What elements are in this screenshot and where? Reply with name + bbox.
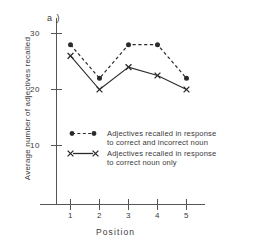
y-tick-label: 30 — [30, 29, 40, 38]
data-point — [97, 76, 102, 81]
x-tick-label: 4 — [155, 211, 160, 220]
y-axis-label: Average number of adjectives recalled — [23, 24, 32, 194]
x-tick-label: 1 — [68, 211, 73, 220]
legend-entry-1-line-1: Adjectives recalled in response — [107, 129, 216, 138]
series-2-line — [71, 56, 187, 90]
x-tick-label: 5 — [184, 211, 189, 220]
chart-canvas — [0, 0, 272, 248]
series-correct-and-incorrect-noun — [68, 42, 189, 81]
y-tick-label: 10 — [30, 141, 40, 150]
x-tick-label: 2 — [97, 211, 102, 220]
legend-marker-series-2 — [68, 151, 99, 157]
y-tick-label: 20 — [30, 85, 40, 94]
data-point — [68, 42, 73, 47]
x-axis-label: Position — [96, 227, 135, 237]
legend-entry-2-line-2: to correct noun only — [107, 158, 177, 167]
data-point — [155, 42, 160, 47]
panel-label: a ) — [47, 13, 61, 23]
legend-entry-1-line-2: to correct and incorrect noun — [107, 138, 208, 147]
data-point — [126, 42, 131, 47]
series-1-line — [71, 45, 187, 79]
data-point — [184, 76, 189, 81]
x-tick-label: 3 — [126, 211, 131, 220]
legend-entry-2-line-1: Adjectives recalled in response — [107, 149, 216, 158]
series-correct-noun-only — [68, 53, 190, 92]
legend-marker-series-1 — [70, 131, 97, 136]
figure-panel-a: a ) Average number of adjectives recalle… — [0, 0, 272, 248]
x-markers — [68, 53, 190, 92]
